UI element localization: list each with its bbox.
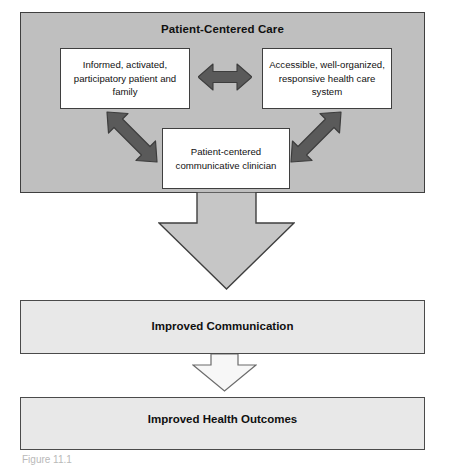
box-system-label: Accessible, well-organized, responsive h…: [268, 58, 386, 100]
box-accessible-health-care-system: Accessible, well-organized, responsive h…: [262, 48, 392, 109]
box-patient-label: Informed, activated, participatory patie…: [66, 58, 184, 100]
panel-title: Patient-Centered Care: [21, 23, 424, 35]
bar-improved-communication: Improved Communication: [20, 300, 425, 354]
bar-outcomes-label: Improved Health Outcomes: [148, 413, 298, 425]
box-patient-centered-clinician: Patient-centered communicative clinician: [162, 128, 290, 189]
figure-caption: Figure 11.1: [22, 454, 432, 465]
box-informed-activated-patient: Informed, activated, participatory patie…: [60, 48, 190, 109]
figure-flow-diagram: Patient-Centered Care Informed, activate…: [0, 0, 449, 468]
bar-improved-health-outcomes: Improved Health Outcomes: [20, 397, 425, 450]
double-arrow-diagonal-nesw-icon: [289, 110, 343, 164]
double-arrow-horizontal-icon: [198, 62, 252, 92]
block-arrow-down-care-to-communication-icon: [158, 192, 295, 290]
double-arrow-diagonal-nwse-icon: [105, 110, 159, 164]
bar-communication-label: Improved Communication: [152, 320, 294, 332]
box-clinician-label: Patient-centered communicative clinician: [168, 145, 284, 173]
block-arrow-down-communication-to-outcomes-icon: [192, 354, 257, 392]
